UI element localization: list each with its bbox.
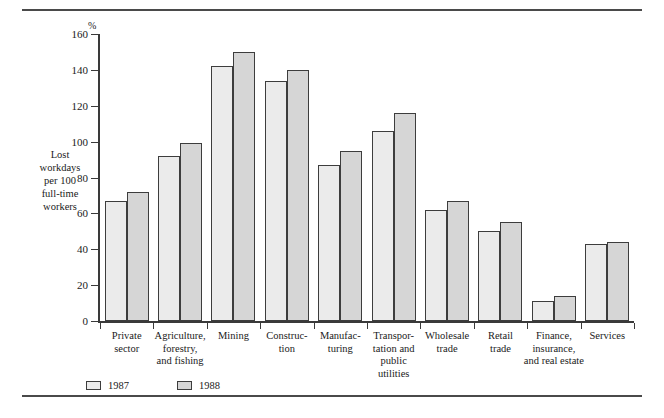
y-tick-mark — [91, 213, 98, 214]
bar-1988[interactable] — [287, 70, 309, 321]
bar-groups — [100, 34, 634, 321]
y-tick-label: 120 — [72, 100, 89, 111]
figure-container: Lost workdays per 100 full-time workers … — [0, 0, 664, 418]
chart-legend: 19871988 — [86, 380, 220, 391]
x-tick-mark — [474, 323, 475, 329]
y-tick-label: 140 — [72, 64, 89, 75]
x-axis-label: Services — [575, 330, 640, 343]
bar-group — [314, 34, 367, 321]
bar-1987[interactable] — [211, 66, 233, 321]
bar-group — [527, 34, 580, 321]
legend-item[interactable]: 1988 — [177, 380, 220, 391]
bar-1987[interactable] — [585, 244, 607, 321]
x-tick-mark — [207, 323, 208, 329]
x-tick-mark — [314, 323, 315, 329]
y-tick-mark — [91, 106, 98, 107]
y-tick-mark — [91, 321, 98, 322]
legend-label: 1987 — [108, 380, 129, 391]
y-tick-label: 60 — [77, 208, 88, 219]
x-tick-mark — [260, 323, 261, 329]
x-tick-mark — [100, 323, 101, 329]
figure-top-rule — [22, 9, 642, 11]
y-tick-label: 20 — [77, 280, 88, 291]
legend-label: 1988 — [199, 380, 220, 391]
y-tick-mark — [91, 34, 98, 35]
light-gray-swatch — [86, 381, 101, 390]
plot-area: 020406080100120140160 — [98, 34, 634, 322]
y-axis-unit-symbol: % — [88, 20, 96, 31]
bar-group — [260, 34, 313, 321]
x-tick-mark — [420, 323, 421, 329]
bar-group — [581, 34, 634, 321]
bar-group — [474, 34, 527, 321]
bar-1987[interactable] — [425, 210, 447, 321]
bar-1988[interactable] — [500, 222, 522, 321]
x-tick-mark — [634, 323, 635, 329]
y-tick-mark — [91, 178, 98, 179]
bar-1987[interactable] — [478, 231, 500, 321]
bar-1988[interactable] — [447, 201, 469, 321]
bar-1987[interactable] — [265, 81, 287, 321]
legend-item[interactable]: 1987 — [86, 380, 129, 391]
y-tick-label: 80 — [77, 172, 88, 183]
bar-1988[interactable] — [607, 242, 629, 321]
bar-1987[interactable] — [318, 165, 340, 321]
x-tick-mark — [153, 323, 154, 329]
bar-1988[interactable] — [127, 192, 149, 321]
bar-1987[interactable] — [158, 156, 180, 321]
bar-1988[interactable] — [394, 113, 416, 321]
y-tick-label: 100 — [72, 136, 89, 147]
y-tick-mark — [91, 70, 98, 71]
dark-gray-swatch — [177, 381, 192, 390]
x-tick-mark — [527, 323, 528, 329]
y-tick-mark — [91, 142, 98, 143]
x-tick-mark — [367, 323, 368, 329]
bar-1987[interactable] — [105, 201, 127, 321]
y-tick-mark — [91, 249, 98, 250]
bar-1987[interactable] — [372, 131, 394, 321]
bar-1987[interactable] — [532, 301, 554, 321]
bar-1988[interactable] — [233, 52, 255, 321]
bar-group — [207, 34, 260, 321]
figure-bottom-rule — [22, 395, 642, 397]
x-tick-mark — [581, 323, 582, 329]
y-tick-label: 0 — [83, 316, 89, 327]
bar-group — [367, 34, 420, 321]
y-tick-label: 40 — [77, 244, 88, 255]
x-axis-line — [98, 321, 634, 323]
bar-1988[interactable] — [180, 143, 202, 321]
bar-group — [420, 34, 473, 321]
bar-group — [153, 34, 206, 321]
bar-1988[interactable] — [554, 296, 576, 321]
y-tick-label: 160 — [72, 29, 89, 40]
y-tick-mark — [91, 285, 98, 286]
bar-group — [100, 34, 153, 321]
bar-1988[interactable] — [340, 151, 362, 321]
